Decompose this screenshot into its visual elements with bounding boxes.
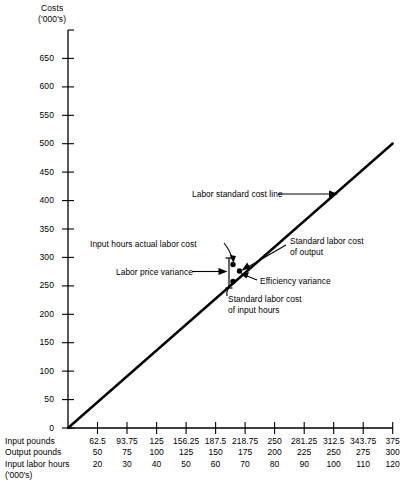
y-tick-label-50: 50 <box>28 395 54 404</box>
table-cell: 218.75 <box>232 436 258 447</box>
table-cell: 100 <box>327 459 341 470</box>
table-cell: 187.5 <box>205 436 227 447</box>
table-cell: 125 <box>179 447 193 458</box>
y-tick-label-550: 550 <box>28 111 54 120</box>
annotation-standard-labor-cost-of-output: Standard labor cost of output <box>290 236 364 258</box>
annotation-std-cost-input-line1: Standard labor cost <box>228 294 302 304</box>
table-row-input-pounds: Input pounds 62.593.75125156.25187.5218.… <box>0 436 406 447</box>
table-cell: 110 <box>356 459 370 470</box>
point-input-hours-actual-labor-cost <box>230 262 235 267</box>
table-cell: 225 <box>297 447 311 458</box>
table-cell: 120 <box>386 459 400 470</box>
annotation-labor-standard-cost-line: Labor standard cost line <box>192 189 283 200</box>
point-standard-labor-cost-of-output <box>237 268 242 273</box>
y-tick-label-350: 350 <box>28 225 54 234</box>
table-cell: 40 <box>152 459 162 470</box>
table-cell: 375 <box>386 436 400 447</box>
table-cell: 50 <box>93 447 103 458</box>
annotation-labor-price-variance: Labor price variance <box>116 267 193 278</box>
y-tick-label-300: 300 <box>28 253 54 262</box>
table-cell: 281.25 <box>291 436 317 447</box>
y-tick-label-250: 250 <box>28 281 54 290</box>
table-cell: 200 <box>267 447 281 458</box>
annotation-std-cost-input-line2: of input hours <box>228 305 279 315</box>
table-cell: 75 <box>122 447 132 458</box>
table-cell: 125 <box>149 436 163 447</box>
row-label-input-labor-hours: Input labor hours <box>5 459 70 470</box>
table-cell: 150 <box>208 447 222 458</box>
x-axis-table-units: ('000's) <box>5 470 32 481</box>
table-cell: 20 <box>93 459 103 470</box>
table-cell: 250 <box>267 436 281 447</box>
y-tick-label-400: 400 <box>28 196 54 205</box>
y-tick-label-450: 450 <box>28 168 54 177</box>
annotation-std-cost-output-line1: Standard labor cost <box>290 236 364 246</box>
annotation-input-hours-actual-labor-cost: Input hours actual labor cost <box>90 239 197 250</box>
table-cell: 156.25 <box>173 436 199 447</box>
table-cell: 60 <box>211 459 221 470</box>
annotation-efficiency-variance: Efficiency variance <box>260 276 331 287</box>
y-tick-label-600: 600 <box>28 82 54 91</box>
table-cell: 250 <box>327 447 341 458</box>
table-cell: 312.5 <box>323 436 345 447</box>
annotation-std-cost-output-line2: of output <box>290 247 323 257</box>
row-label-input-pounds: Input pounds <box>5 436 55 447</box>
table-cell: 175 <box>238 447 252 458</box>
table-cell: 343.75 <box>350 436 376 447</box>
table-cell: 50 <box>181 459 191 470</box>
row-label-output-pounds: Output pounds <box>5 447 61 458</box>
standard-cost-variance-chart: Costs ('000's) <box>0 0 406 496</box>
leader-std-cost-output <box>242 245 287 271</box>
leader-input-hours-actual <box>224 243 236 263</box>
point-standard-labor-cost-of-input-hours <box>230 279 235 284</box>
table-cell: 93.75 <box>116 436 138 447</box>
y-tick-label-150: 150 <box>28 338 54 347</box>
table-cell: 100 <box>149 447 163 458</box>
leader-labor-price-variance <box>192 268 228 275</box>
table-cell: 90 <box>299 459 309 470</box>
annotation-standard-labor-cost-of-input-hours: Standard labor cost of input hours <box>228 294 302 316</box>
table-cell: 30 <box>122 459 132 470</box>
y-tick-label-650: 650 <box>28 54 54 63</box>
y-tick-label-100: 100 <box>28 367 54 376</box>
table-cell: 300 <box>386 447 400 458</box>
y-tick-label-0: 0 <box>28 424 54 433</box>
table-row-input-labor-hours: Input labor hours 2030405060708090100110… <box>0 459 406 470</box>
x-axis-data-table: Input pounds 62.593.75125156.25187.5218.… <box>0 436 406 470</box>
table-cell: 70 <box>240 459 250 470</box>
leader-standard-cost-line <box>278 191 338 198</box>
table-row-output-pounds: Output pounds 50751001251501752002252502… <box>0 447 406 458</box>
table-cell: 275 <box>356 447 370 458</box>
table-cell: 80 <box>270 459 280 470</box>
y-tick-label-500: 500 <box>28 139 54 148</box>
y-tick-label-200: 200 <box>28 310 54 319</box>
table-cell: 62.5 <box>89 436 106 447</box>
